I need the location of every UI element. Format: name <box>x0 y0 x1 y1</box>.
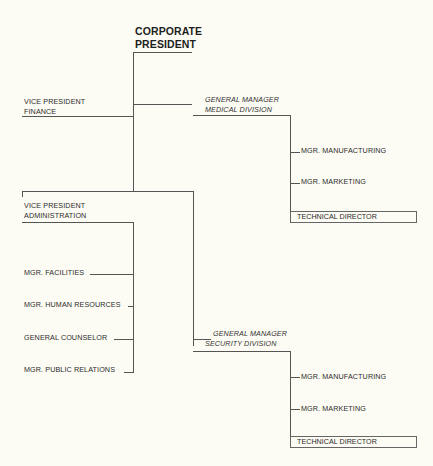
vp-finance-line1: VICE PRESIDENT <box>24 97 85 107</box>
admin-general-counselor: GENERAL COUNSELOR <box>24 333 107 343</box>
medical-mgr-manufacturing: MGR. MANUFACTURING <box>301 146 386 156</box>
gm-security-node: GENERAL MANAGER SECURITY DIVISION <box>205 329 287 349</box>
admin-mgr-human-resources: MGR. HUMAN RESOURCES <box>24 300 121 310</box>
corporate-president-node: CORPORATE PRESIDENT <box>135 25 202 51</box>
security-technical-director: TECHNICAL DIRECTOR <box>290 436 417 448</box>
president-line2: PRESIDENT <box>135 38 202 51</box>
gm-medical-node: GENERAL MANAGER MEDICAL DIVISION <box>205 95 279 115</box>
security-mgr-manufacturing: MGR. MANUFACTURING <box>301 372 386 382</box>
security-mgr-marketing: MGR. MARKETING <box>301 404 366 414</box>
admin-mgr-public-relations: MGR. PUBLIC RELATIONS <box>24 365 115 375</box>
gm-medical-line1: GENERAL MANAGER <box>205 95 279 105</box>
vp-finance-node: VICE PRESIDENT FINANCE <box>24 97 85 117</box>
vp-finance-line2: FINANCE <box>24 107 85 117</box>
gm-security-line2: SECURITY DIVISION <box>205 339 287 349</box>
connector-lines <box>0 0 433 466</box>
vp-administration-node: VICE PRESIDENT ADMINISTRATION <box>24 201 86 221</box>
medical-technical-director: TECHNICAL DIRECTOR <box>290 211 417 223</box>
vp-admin-line1: VICE PRESIDENT <box>24 201 86 211</box>
vp-admin-line2: ADMINISTRATION <box>24 211 86 221</box>
medical-mgr-marketing: MGR. MARKETING <box>301 177 366 187</box>
president-line1: CORPORATE <box>135 25 202 38</box>
admin-mgr-facilities: MGR. FACILITIES <box>24 268 84 278</box>
gm-medical-line2: MEDICAL DIVISION <box>205 105 279 115</box>
gm-security-line1: GENERAL MANAGER <box>213 329 287 339</box>
